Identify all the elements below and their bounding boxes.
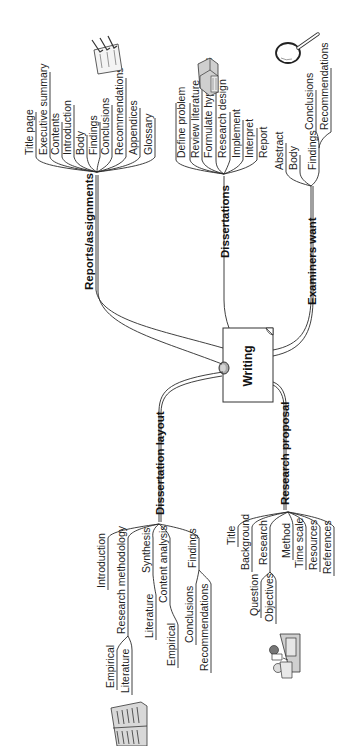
reports-item-6: Conclusions <box>99 98 111 155</box>
book-stack-icon <box>198 58 218 96</box>
reports-item-7: Recommendations <box>113 67 125 155</box>
central-label: Writing <box>241 345 255 386</box>
examiners-findings-child-1: Recommendations <box>318 42 330 130</box>
dissertations-label: Dissertations <box>219 185 231 258</box>
proposal-label: Research proposal <box>279 401 291 505</box>
layout-item-3: Content analysis <box>157 525 169 603</box>
examiners-item-1: Body <box>287 145 299 170</box>
proposal-item-6: References <box>321 520 333 574</box>
examiners-findings-child-0: Conclusions <box>303 73 315 130</box>
layout-label: Dissertation layout <box>154 411 166 515</box>
examiners-label: Examiners want <box>306 217 318 305</box>
proposal-item-0: Title <box>225 525 237 545</box>
branch-reports: Reports/assignments Title <box>23 63 155 290</box>
dissertations-item-0: Define problem <box>175 87 187 158</box>
examiners-item-0: Abstract <box>273 131 285 170</box>
layout-content-child-0: Empirical <box>165 623 177 666</box>
branch-examiners: Examiners want Abstract Body Findings Co… <box>273 42 331 305</box>
branch-dissertations: Dissertations Define problem Review lite… <box>175 58 269 258</box>
proposal-research-child-0: Question <box>248 574 260 616</box>
dissertations-item-4: Implement <box>230 109 242 158</box>
reports-item-9: Glossary <box>142 113 154 155</box>
reports-item-8: Appendices <box>127 100 139 155</box>
reports-item-0: Title page <box>23 109 35 155</box>
magnifier-icon <box>276 34 318 63</box>
proposal-item-3: Method <box>280 523 292 558</box>
proposal-item-1: Background <box>239 514 251 570</box>
dissertations-item-5: Interpret <box>243 119 255 158</box>
layout-item-0: Introduction <box>95 533 107 588</box>
layout-methodology-child-1: Literature <box>119 648 131 693</box>
layout-synthesis-child-0: Literature <box>143 593 155 638</box>
people-at-desk-icon <box>270 634 301 678</box>
branch-layout: Dissertation layout Introduction Researc… <box>95 411 211 695</box>
dissertations-item-1: Review literature <box>189 80 201 158</box>
checklist-icon <box>92 36 122 74</box>
examiners-item-2: Findings <box>306 130 318 170</box>
layout-item-2: Synthesis <box>140 527 152 573</box>
proposal-item-2: Research <box>257 520 269 565</box>
layout-findings-child-1: Recommendations <box>198 583 210 671</box>
proposal-item-5: Resources <box>307 520 319 570</box>
reports-item-2: Contents <box>49 113 61 155</box>
proposal-item-4: Time scale <box>293 517 305 568</box>
branch-proposal: Research proposal Title Background Resea… <box>225 401 334 624</box>
open-book-icon <box>111 702 147 746</box>
layout-item-1: Research methodology <box>115 525 127 634</box>
layout-findings-child-0: Conclusions <box>183 586 195 643</box>
reports-item-3: Introduction <box>61 100 73 155</box>
layout-methodology-child-0: Empirical <box>104 645 116 688</box>
proposal-research-child-1: Objectives <box>263 573 275 622</box>
reports-item-1: Executive summary <box>37 63 49 155</box>
reports-item-5: Findings <box>87 115 99 155</box>
central-node: Writing <box>223 328 273 402</box>
dissertations-item-6: Report <box>257 126 269 158</box>
layout-item-4: Findings <box>186 528 198 568</box>
reports-item-4: Body <box>74 130 86 155</box>
reports-label: Reports/assignments <box>83 173 95 290</box>
